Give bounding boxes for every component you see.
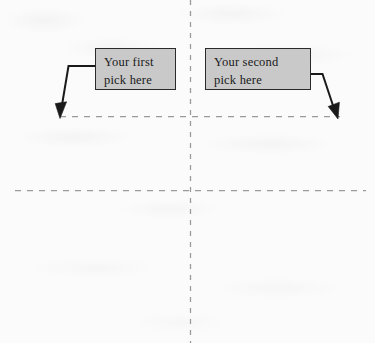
- guides-and-arrows-layer: [0, 0, 375, 343]
- figure-canvas: Your first pick here Your second pick he…: [0, 0, 375, 343]
- callout-first-line-2: pick here: [104, 71, 168, 89]
- callout-second-line-1: Your second: [214, 53, 303, 71]
- leader-arrow-left: [55, 66, 95, 119]
- callout-second-line-2: pick here: [214, 71, 303, 89]
- callout-box-second-pick: Your second pick here: [205, 48, 311, 90]
- leader-arrow-right: [311, 74, 339, 119]
- callout-box-first-pick: Your first pick here: [95, 48, 176, 90]
- callout-first-line-1: Your first: [104, 53, 168, 71]
